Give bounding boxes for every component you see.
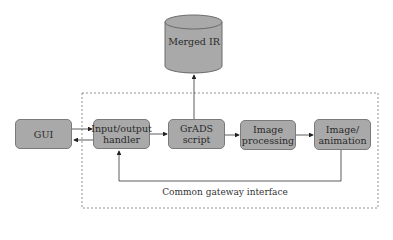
node-io-handler-label: Input/output handler (91, 123, 152, 145)
edge-animation-to-io (119, 150, 341, 181)
node-image-animation-label: Image/ animation (318, 124, 366, 146)
node-image-animation: Image/ animation (314, 119, 371, 150)
node-grads-script-label: GrADS script (169, 123, 224, 145)
node-grads-script: GrADS script (168, 119, 225, 149)
node-io-handler: Input/output handler (93, 119, 150, 149)
database-label: Merged IR (165, 36, 223, 47)
node-image-processing-label: Image processing (242, 124, 294, 146)
cgi-group-label: Common gateway interface (150, 187, 300, 197)
node-gui-label: GUI (34, 129, 53, 140)
node-image-processing: Image processing (240, 120, 296, 150)
node-gui: GUI (15, 119, 72, 149)
